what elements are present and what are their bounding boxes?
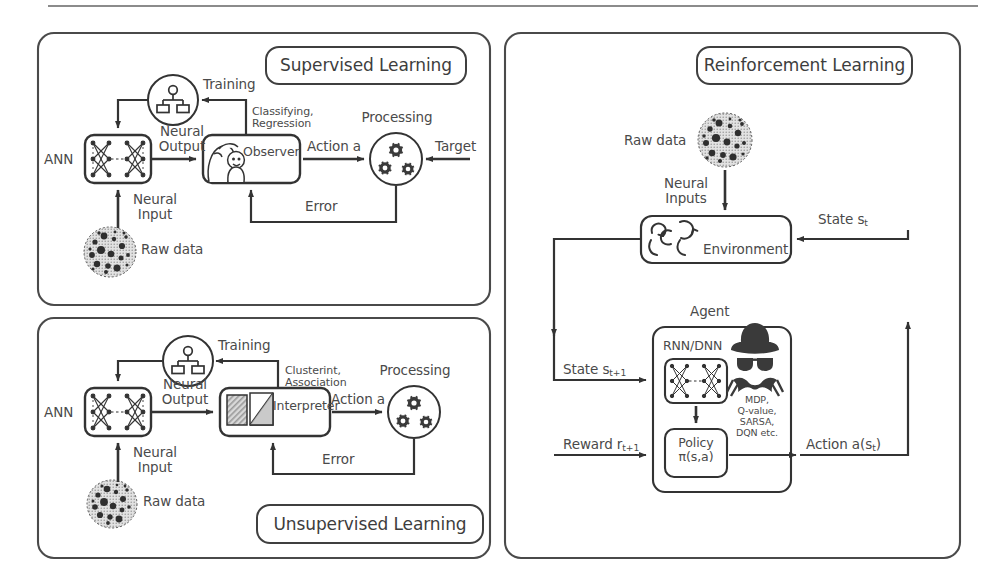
sl-neural-input-label: Neural Input [126,192,184,222]
sl-observer-label: Observer [243,145,300,159]
ul-processing-label: Processing [370,363,460,378]
ul-training-label: Training [218,338,270,353]
rl-state-t-label: State st [818,212,868,229]
sl-classifying-label: Classifying, Regression [252,106,314,131]
sl-training-label: Training [203,77,255,92]
rl-policy-label: Policyπ(s,a) [665,436,727,464]
panel-title-unsupervised: Unsupervised Learning [257,515,483,534]
ul-error-label: Error [322,452,354,467]
sl-error-label: Error [305,199,337,214]
panel-title-reinforcement: Reinforcement Learning [697,56,912,75]
sl-processing-label: Processing [352,110,442,125]
rl-algorithms-label: MDP, Q-value, SARSA, DQN etc. [722,395,792,439]
rl-reward-label: Reward rt+1 [563,437,639,454]
sl-target-label: Target [435,139,476,154]
ul-raw-data-label: Raw data [143,494,205,509]
rl-agent-label: Agent [690,304,729,319]
ul-ann-label: ANN [44,405,73,420]
sl-raw-data-label: Raw data [141,242,203,257]
rl-action-label: Action a(st) [806,437,881,454]
sl-neural-output-label: Neural Output [152,124,212,154]
rl-neural-inputs-label: Neural Inputs [655,176,717,206]
ul-action-label: Action a [331,392,385,407]
ul-clustering-label: Clusterint, Association [285,365,347,390]
rl-environment-label: Environment [703,242,788,257]
rl-state-next-label: State st+1 [563,362,626,379]
diagram-canvas: Supervised Learning Unsupervised Learnin… [0,0,981,585]
rl-rnn-dnn-label: RNN/DNN [663,339,722,353]
rl-raw-data-label: Raw data [624,133,686,148]
sl-ann-label: ANN [44,152,73,167]
ul-neural-output-label: Neural Output [155,377,215,407]
ul-neural-input-label: Neural Input [126,445,184,475]
ul-interpreter-label: Interpreter [273,399,339,413]
sl-action-label: Action a [307,139,361,154]
panel-title-supervised: Supervised Learning [266,56,466,75]
